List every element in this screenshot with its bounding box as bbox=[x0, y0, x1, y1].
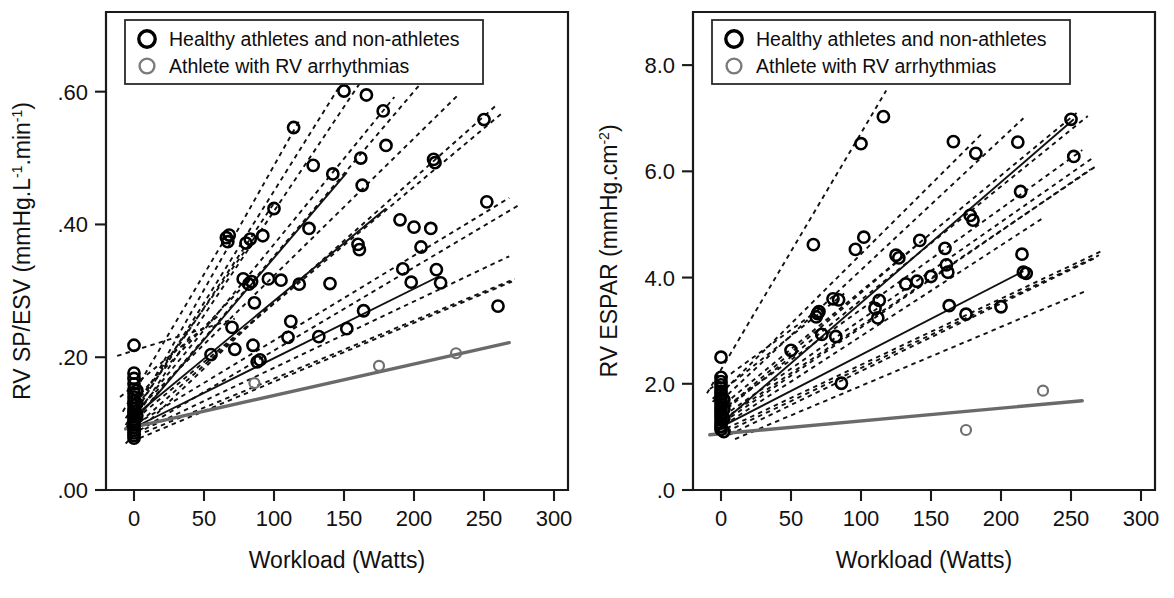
data-point-healthy-55 bbox=[1012, 137, 1023, 148]
data-point-healthy-60 bbox=[1065, 114, 1076, 125]
x-tick-label-0: 0 bbox=[715, 506, 727, 531]
x-tick-label-4: 200 bbox=[983, 506, 1020, 531]
data-point-healthy-59 bbox=[361, 89, 372, 100]
data-point-patient-0 bbox=[249, 378, 259, 388]
data-point-healthy-43 bbox=[282, 332, 293, 343]
regression-line-solid-0 bbox=[137, 173, 347, 419]
data-point-healthy-24 bbox=[205, 349, 216, 360]
x-tick-label-6: 300 bbox=[536, 506, 573, 531]
regression-line-dashed-2 bbox=[715, 118, 1023, 406]
regression-line-dashed-7 bbox=[134, 97, 394, 416]
data-point-healthy-41 bbox=[268, 203, 279, 214]
x-tick-label-2: 100 bbox=[256, 506, 293, 531]
x-tick-label-3: 150 bbox=[913, 506, 950, 531]
axis-ticks: 050100150200250300.00.20.40.60 bbox=[57, 80, 572, 531]
x-tick-label-6: 300 bbox=[1123, 506, 1160, 531]
data-point-healthy-67 bbox=[425, 223, 436, 234]
regression-line-solid-1 bbox=[727, 271, 1024, 424]
svg-text:RV ESPAR (mmHg.cm-2): RV ESPAR (mmHg.cm-2) bbox=[596, 124, 622, 377]
data-point-healthy-40 bbox=[263, 273, 274, 284]
data-point-healthy-61 bbox=[380, 140, 391, 151]
y-tick-label-3: .60 bbox=[57, 80, 88, 105]
data-point-patient-1 bbox=[1038, 386, 1048, 396]
data-point-healthy-0 bbox=[128, 340, 139, 351]
data-point-healthy-29 bbox=[229, 344, 240, 355]
data-point-healthy-53 bbox=[341, 323, 352, 334]
data-point-healthy-74 bbox=[481, 196, 492, 207]
y-axis-title: RV SP/ESV (mmHg.L-1.min-1) bbox=[9, 102, 35, 400]
panel-left: 050100150200250300.00.20.40.60Workload (… bbox=[0, 0, 587, 598]
x-tick-label-1: 50 bbox=[779, 506, 803, 531]
data-layer bbox=[707, 91, 1102, 439]
regression-line-dashed-14 bbox=[137, 256, 509, 433]
regression-line-solid-2 bbox=[137, 276, 439, 426]
y-tick-label-1: .20 bbox=[57, 345, 88, 370]
data-point-healthy-33 bbox=[855, 138, 866, 149]
regression-line-dashed-12 bbox=[137, 198, 509, 424]
data-point-healthy-62 bbox=[394, 214, 405, 225]
data-point-healthy-52 bbox=[338, 85, 349, 96]
data-point-healthy-48 bbox=[308, 160, 319, 171]
y-tick-label-0: .00 bbox=[57, 478, 88, 503]
data-point-healthy-41 bbox=[900, 278, 911, 289]
x-axis-title: Workload (Watts) bbox=[836, 547, 1012, 573]
data-point-healthy-36 bbox=[249, 297, 260, 308]
data-point-healthy-53 bbox=[970, 148, 981, 159]
data-point-healthy-34 bbox=[858, 232, 869, 243]
data-point-healthy-32 bbox=[850, 244, 861, 255]
data-point-healthy-57 bbox=[1016, 249, 1027, 260]
panel-right-svg: 050100150200250300.02.04.06.08.0Workload… bbox=[587, 0, 1174, 598]
y-tick-label-2: .40 bbox=[57, 212, 88, 237]
figure-root: 050100150200250300.00.20.40.60Workload (… bbox=[0, 0, 1174, 598]
regression-line-patient bbox=[710, 401, 1082, 435]
x-tick-label-2: 100 bbox=[843, 506, 880, 531]
x-tick-label-0: 0 bbox=[128, 506, 140, 531]
data-point-patient-0 bbox=[961, 425, 971, 435]
y-tick-label-3: 6.0 bbox=[644, 159, 675, 184]
data-point-healthy-51 bbox=[327, 168, 338, 179]
data-point-healthy-47 bbox=[303, 223, 314, 234]
legend-label-0: Healthy athletes and non-athletes bbox=[756, 28, 1047, 50]
x-tick-label-1: 50 bbox=[192, 506, 216, 531]
data-point-healthy-23 bbox=[808, 239, 819, 250]
panel-right: 050100150200250300.02.04.06.08.0Workload… bbox=[587, 0, 1174, 598]
data-point-healthy-29 bbox=[830, 331, 841, 342]
data-point-healthy-28 bbox=[226, 322, 237, 333]
data-layer bbox=[117, 52, 517, 444]
panel-left-plot-area: 050100150200250300.00.20.40.60Workload (… bbox=[9, 12, 572, 573]
x-tick-label-4: 200 bbox=[396, 506, 433, 531]
legend-label-0: Healthy athletes and non-athletes bbox=[169, 28, 460, 50]
data-point-healthy-50 bbox=[324, 278, 335, 289]
data-point-healthy-75 bbox=[492, 301, 503, 312]
data-point-healthy-44 bbox=[285, 316, 296, 327]
x-tick-label-5: 250 bbox=[1053, 506, 1090, 531]
data-point-healthy-45 bbox=[939, 243, 950, 254]
y-tick-label-2: 4.0 bbox=[644, 266, 675, 291]
x-axis-title: Workload (Watts) bbox=[249, 547, 425, 573]
regression-line-solid-1 bbox=[137, 209, 386, 415]
data-point-healthy-64 bbox=[406, 277, 417, 288]
data-point-healthy-61 bbox=[1068, 151, 1079, 162]
data-point-healthy-39 bbox=[257, 230, 268, 241]
data-point-healthy-38 bbox=[878, 111, 889, 122]
data-point-healthy-63 bbox=[397, 263, 408, 274]
x-tick-label-3: 150 bbox=[326, 506, 363, 531]
data-point-healthy-70 bbox=[431, 264, 442, 275]
legend: Healthy athletes and non-athletesAthlete… bbox=[125, 20, 483, 84]
y-tick-label-0: .0 bbox=[657, 478, 675, 503]
y-tick-label-1: 2.0 bbox=[644, 372, 675, 397]
legend-label-1: Athlete with RV arrhythmias bbox=[169, 55, 409, 77]
data-point-healthy-42 bbox=[275, 275, 286, 286]
legend-label-1: Athlete with RV arrhythmias bbox=[756, 55, 996, 77]
panel-right-plot-area: 050100150200250300.02.04.06.08.0Workload… bbox=[596, 12, 1159, 573]
data-point-healthy-49 bbox=[948, 136, 959, 147]
data-point-healthy-65 bbox=[408, 222, 419, 233]
y-axis-title: RV ESPAR (mmHg.cm-2) bbox=[596, 124, 622, 377]
data-point-healthy-31 bbox=[836, 378, 847, 389]
x-tick-label-5: 250 bbox=[466, 506, 503, 531]
data-point-healthy-72 bbox=[435, 277, 446, 288]
regression-line-dashed-11 bbox=[137, 114, 501, 418]
data-point-healthy-0 bbox=[715, 352, 726, 363]
panel-left-svg: 050100150200250300.00.20.40.60Workload (… bbox=[0, 0, 587, 598]
regression-line-dashed-16 bbox=[721, 243, 920, 413]
